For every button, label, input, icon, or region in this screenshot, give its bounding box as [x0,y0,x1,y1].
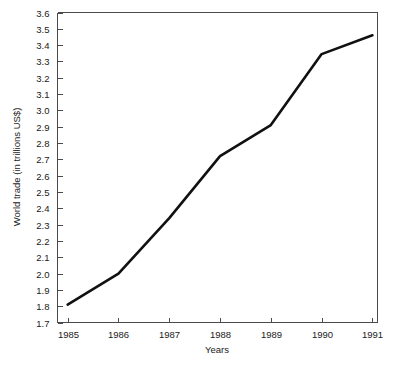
y-axis-tick-label: 2.3 [36,220,49,231]
x-axis-tick-group: 1985198619871988198919901991 [58,318,383,340]
y-axis-tick-label: 2.9 [36,122,49,133]
y-axis-tick-group: 1.71.81.92.02.12.22.32.42.52.62.72.82.93… [36,8,62,329]
y-axis-tick-label: 3.2 [36,73,49,84]
x-axis-tick-label: 1990 [312,329,333,340]
y-axis-tick-label: 2.1 [36,252,49,263]
y-axis-tick-label: 2.2 [36,236,49,247]
chart-figure: 1.71.81.92.02.12.22.32.42.52.62.72.82.93… [0,0,394,366]
world-trade-line [68,35,373,304]
y-axis-tick-label: 2.0 [36,269,49,280]
y-axis-tick-label: 3.0 [36,105,49,116]
y-axis-tick-label: 1.9 [36,285,49,296]
y-axis-tick-label: 3.4 [36,40,49,51]
x-axis-tick-label: 1989 [261,329,282,340]
line-chart: 1.71.81.92.02.12.22.32.42.52.62.72.82.93… [0,0,394,366]
y-axis-tick-label: 1.7 [36,318,49,329]
x-axis-tick-label: 1991 [362,329,383,340]
y-axis-tick-label: 2.6 [36,171,49,182]
y-axis-title: World trade (in trillions US$) [11,108,22,227]
x-axis-tick-label: 1988 [210,329,231,340]
y-axis-tick-label: 2.4 [36,203,49,214]
y-axis-tick-label: 2.5 [36,187,49,198]
plot-axis-frame [58,13,378,323]
y-axis-tick-label: 3.1 [36,89,49,100]
x-axis-tick-label: 1986 [108,329,129,340]
y-axis-tick-label: 3.5 [36,24,49,35]
x-axis-title: Years [205,344,229,355]
x-axis-tick-label: 1987 [159,329,180,340]
y-axis-tick-label: 1.8 [36,301,49,312]
y-axis-tick-label: 3.3 [36,56,49,67]
x-axis-tick-label: 1985 [58,329,79,340]
y-axis-tick-label: 2.7 [36,154,49,165]
y-axis-tick-label: 2.8 [36,138,49,149]
y-axis-tick-label: 3.6 [36,8,49,19]
